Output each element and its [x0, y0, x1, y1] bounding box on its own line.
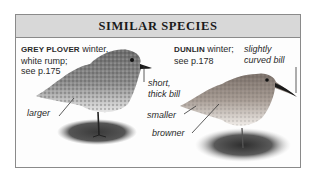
dunlin-size-annotation: smaller [147, 110, 176, 121]
dunlin-caption: DUNLIN winter; see p.178 [174, 44, 234, 66]
bill-annotation-line-2: thick bill [148, 89, 180, 100]
grey-plover-note-2: white rump; [21, 56, 108, 67]
dunlin-bill-annotation: slightly curved bill [244, 44, 285, 65]
bill-annotation-line-1: short, [148, 78, 180, 89]
dunlin-illustration [180, 73, 297, 162]
bill-annotation-line-2: curved bill [244, 55, 285, 66]
dunlin-name: DUNLIN [174, 45, 205, 54]
grey-plover-note-1: winter, [80, 44, 109, 54]
bill-annotation-line-1: slightly [244, 44, 285, 55]
dunlin-note-1: winter; [205, 44, 234, 54]
grey-plover-bill-annotation: short, thick bill [148, 78, 180, 99]
grey-plover-size-annotation: larger [27, 108, 50, 119]
grey-plover-name: GREY PLOVER [21, 45, 80, 54]
grey-plover-caption: GREY PLOVER winter, white rump; see p.17… [21, 44, 108, 77]
dunlin-note-2: see p.178 [174, 56, 234, 67]
grey-plover-note-3: see p.175 [21, 66, 108, 77]
dunlin-color-annotation: browner [152, 128, 185, 139]
